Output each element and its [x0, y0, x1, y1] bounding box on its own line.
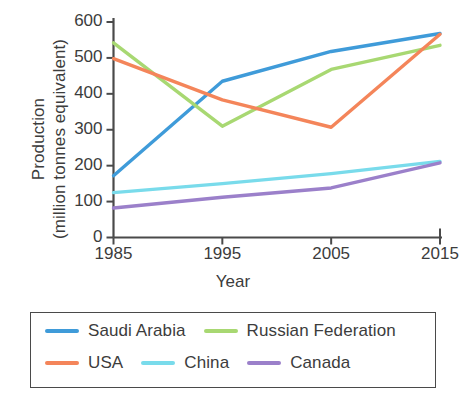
legend-item[interactable]: Saudi Arabia — [45, 321, 186, 341]
y-axis-title-line-2: (million tonnes equivalent) — [49, 14, 70, 264]
legend-label: Saudi Arabia — [88, 321, 186, 341]
x-axis-tick-label: 2015 — [405, 244, 466, 264]
legend-label: China — [184, 353, 229, 373]
x-axis-tick-label: 1985 — [79, 244, 149, 264]
legend-label: Canada — [290, 353, 350, 373]
legend-item[interactable]: Canada — [247, 353, 350, 373]
legend-swatch-icon — [45, 361, 79, 365]
legend-item[interactable]: USA — [45, 353, 123, 373]
legend-label: USA — [88, 353, 123, 373]
x-axis-tick-label: 2005 — [296, 244, 366, 264]
x-axis-title: Year — [0, 272, 466, 292]
series-line-china — [114, 161, 441, 192]
legend-swatch-icon — [247, 361, 281, 365]
legend-label: Russian Federation — [247, 321, 396, 341]
legend-item[interactable]: China — [141, 353, 229, 373]
x-axis-tick-label: 1995 — [187, 244, 257, 264]
legend-row: USAChinaCanada — [45, 353, 368, 373]
series-line-canada — [114, 163, 441, 208]
legend-swatch-icon — [204, 329, 238, 333]
line-chart-figure: 0100200300400500600 1985199520052015 Pro… — [0, 0, 466, 397]
legend-item[interactable]: Russian Federation — [204, 321, 396, 341]
legend-swatch-icon — [141, 361, 175, 365]
legend-swatch-icon — [45, 329, 79, 333]
chart-legend: Saudi ArabiaRussian Federation USAChinaC… — [30, 312, 436, 388]
legend-row: Saudi ArabiaRussian Federation — [45, 321, 414, 341]
data-series-lines — [114, 33, 441, 208]
plot-area: 0100200300400500600 1985199520052015 Pro… — [0, 0, 466, 300]
y-axis-title-line-1: Production — [28, 14, 49, 264]
y-axis-title: Production (million tonnes equivalent) — [28, 14, 70, 264]
